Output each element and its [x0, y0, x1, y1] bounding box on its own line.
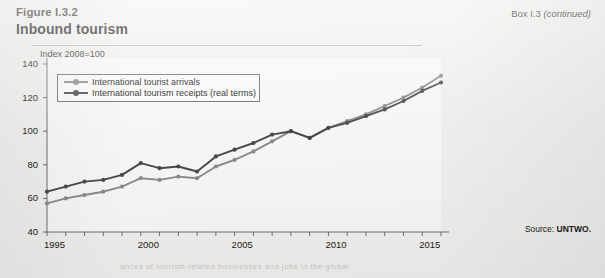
x-axis-tick-label: 2010	[325, 239, 359, 250]
page-root: Figure I.3.2 Inbound tourism Box I.3 (co…	[0, 0, 605, 278]
x-axis-tick-label: 1995	[44, 239, 78, 250]
chart-legend: International tourist arrivals Internati…	[57, 74, 260, 102]
legend-item-receipts: International tourism receipts (real ter…	[64, 88, 256, 98]
y-axis-tick-label: 60	[16, 192, 38, 203]
y-axis-tick-label: 80	[16, 159, 38, 170]
x-axis-tick-label: 2005	[232, 239, 266, 250]
page-bleedthrough-text: ances of tourism-related businesses and …	[120, 262, 500, 274]
x-axis-tick-label: 2000	[138, 239, 172, 250]
source-prefix: Source:	[525, 224, 557, 234]
y-axis-tick-label: 140	[16, 58, 38, 69]
y-axis-tick-label: 120	[16, 92, 38, 103]
legend-line-marker-icon	[64, 77, 88, 86]
legend-line-marker-icon	[64, 88, 88, 97]
legend-label-receipts: International tourism receipts (real ter…	[92, 88, 256, 98]
y-axis-tick-label: 100	[16, 125, 38, 136]
source-note: Source: UNTWO.	[525, 224, 591, 234]
source-value: UNTWO.	[557, 224, 591, 234]
legend-item-arrivals: International tourist arrivals	[64, 77, 200, 87]
x-axis-tick-label: 2015	[419, 239, 453, 250]
line-chart	[0, 0, 605, 278]
legend-label-arrivals: International tourist arrivals	[92, 77, 200, 87]
y-axis-tick-label: 40	[16, 226, 38, 237]
